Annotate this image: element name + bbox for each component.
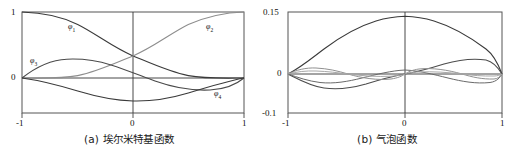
panel-a-caption: (a) 埃尔米特基函数 bbox=[0, 131, 258, 146]
panel-a-xtick-label-0: 0 bbox=[130, 118, 135, 128]
phi2-subscript: 2 bbox=[210, 27, 213, 33]
panel-a-xtick-label-1: 1 bbox=[242, 118, 247, 128]
panel-b-xtick-label-0: 0 bbox=[402, 118, 407, 128]
panel-a-xtick-label-neg1: -1 bbox=[16, 118, 24, 128]
panel-b-frame bbox=[288, 12, 502, 113]
figure-container: 1 0 -1 0 1 φ1 φ3 φ2 φ4 (a) 埃尔米特基函数 bbox=[0, 0, 516, 160]
panel-b-ytick-label-015: 0.15 bbox=[263, 7, 279, 17]
panel-b-ytick-label-neg01: -0.1 bbox=[262, 108, 276, 118]
panel-a-ytick-label-1: 1 bbox=[11, 7, 16, 17]
phi3-subscript: 3 bbox=[34, 61, 37, 67]
panel-a-label-phi3: φ3 bbox=[30, 56, 37, 67]
panel-b-xtick-label-1: 1 bbox=[500, 118, 505, 128]
phi4-subscript: 4 bbox=[218, 94, 221, 100]
panel-a-label-phi4: φ4 bbox=[214, 89, 221, 100]
panel-a-label-phi1: φ1 bbox=[68, 22, 75, 33]
panel-a-label-phi2: φ2 bbox=[206, 22, 213, 33]
panel-a-ytick-label-0: 0 bbox=[11, 72, 16, 82]
panel-b-xtick-label-neg1: -1 bbox=[282, 118, 290, 128]
panel-b-ytick-label-0: 0 bbox=[277, 68, 282, 78]
panel-b-caption: (b) 气泡函数 bbox=[258, 131, 516, 146]
panel-a: 1 0 -1 0 1 φ1 φ3 φ2 φ4 (a) 埃尔米特基函数 bbox=[0, 0, 258, 160]
panel-b: 0.15 0 -0.1 -1 0 1 (b) 气泡函数 bbox=[258, 0, 516, 160]
phi1-subscript: 1 bbox=[72, 27, 75, 33]
